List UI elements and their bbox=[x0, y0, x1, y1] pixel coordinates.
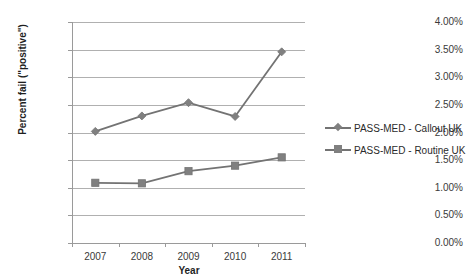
x-tick-mark bbox=[258, 243, 259, 247]
x-tick-label: 2007 bbox=[71, 252, 119, 262]
y-tick-mark bbox=[68, 50, 72, 51]
gridline bbox=[72, 22, 305, 23]
y-tick-mark bbox=[68, 22, 72, 23]
y-tick-mark bbox=[68, 160, 72, 161]
y-tick-mark bbox=[68, 188, 72, 189]
y-tick-label: 2.50% bbox=[399, 100, 463, 110]
y-tick-label: 3.00% bbox=[399, 72, 463, 82]
x-tick-label: 2008 bbox=[118, 252, 166, 262]
gridline bbox=[72, 133, 305, 134]
x-tick-label: 2011 bbox=[258, 252, 306, 262]
y-tick-label: 3.50% bbox=[399, 45, 463, 55]
y-axis-line bbox=[72, 22, 73, 244]
x-tick-mark bbox=[165, 243, 166, 247]
y-tick-mark bbox=[68, 77, 72, 78]
legend-item: PASS-MED - Routine UK bbox=[325, 139, 463, 161]
gridline bbox=[72, 77, 305, 78]
y-tick-label: 0.50% bbox=[399, 210, 463, 220]
gridline bbox=[72, 215, 305, 216]
y-tick-mark bbox=[68, 133, 72, 134]
x-tick-mark bbox=[119, 243, 120, 247]
y-tick-label: 1.00% bbox=[399, 183, 463, 193]
legend-square-icon bbox=[325, 143, 351, 157]
gridline bbox=[72, 188, 305, 189]
x-tick-mark bbox=[212, 243, 213, 247]
y-tick-mark bbox=[68, 105, 72, 106]
legend-label: PASS-MED - Routine UK bbox=[354, 145, 466, 156]
x-axis-line bbox=[72, 243, 306, 244]
legend-label: PASS-MED - Callout UK bbox=[354, 123, 462, 134]
legend-item: PASS-MED - Callout UK bbox=[325, 117, 463, 139]
x-tick-mark bbox=[72, 243, 73, 247]
x-tick-label: 2009 bbox=[165, 252, 213, 262]
x-tick-label: 2010 bbox=[211, 252, 259, 262]
gridline bbox=[72, 160, 305, 161]
chart-legend: PASS-MED - Callout UKPASS-MED - Routine … bbox=[325, 117, 463, 161]
plot-area bbox=[72, 22, 305, 243]
gridline bbox=[72, 105, 305, 106]
y-tick-mark bbox=[68, 215, 72, 216]
y-tick-label: 0.00% bbox=[399, 238, 463, 248]
x-tick-mark bbox=[305, 243, 306, 247]
legend-diamond-icon bbox=[325, 121, 351, 135]
y-axis-title: Percent fail ("positive") bbox=[17, 10, 28, 150]
x-axis-title: Year bbox=[72, 265, 306, 276]
gridline bbox=[72, 50, 305, 51]
y-tick-label: 4.00% bbox=[399, 17, 463, 27]
